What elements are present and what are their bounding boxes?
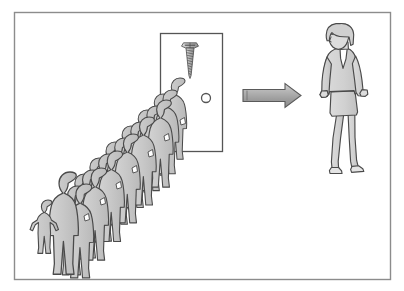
woman-left-shoe (329, 168, 342, 174)
scene-vector-graphic (0, 0, 404, 291)
woman-skirt (330, 91, 358, 116)
illustration-canvas: Queue at the door A long diagonal line o… (0, 0, 404, 291)
woman-right-hand (360, 90, 368, 97)
door-knob-icon (202, 94, 211, 103)
woman-left-hand (320, 91, 328, 98)
